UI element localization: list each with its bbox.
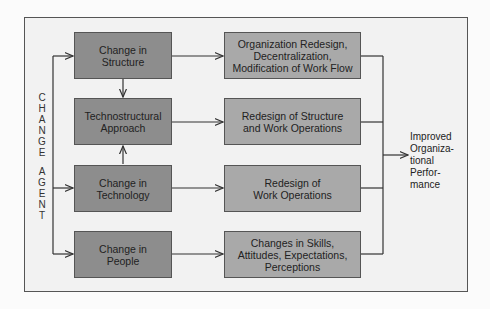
- box-changes-in-skills: Changes in Skills,Attitudes, Expectation…: [224, 231, 361, 278]
- box-redesign-work-operations: Redesign ofWork Operations: [224, 165, 361, 212]
- change-agent-label: C H A N G E A G E N T: [36, 92, 48, 221]
- box-change-in-people: Change inPeople: [74, 231, 172, 278]
- box-change-in-structure: Change inStructure: [74, 32, 172, 79]
- box-change-in-technology: Change inTechnology: [74, 165, 172, 212]
- outcome-improved-performance: Improved Organiza- tional Perfor- mance: [410, 131, 454, 191]
- box-technostructural-approach: TechnostructuralApproach: [74, 98, 172, 145]
- box-organization-redesign: Organization Redesign,Decentralization,M…: [224, 32, 361, 79]
- box-redesign-structure-work: Redesign of Structureand Work Operations: [224, 98, 361, 145]
